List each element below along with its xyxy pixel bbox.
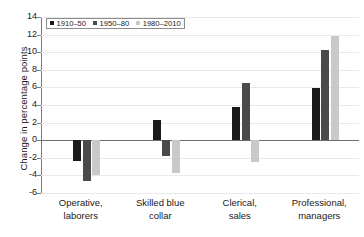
- bar: [312, 88, 320, 140]
- legend-label: 1910–50: [57, 20, 87, 28]
- bar: [251, 140, 259, 162]
- bar-group: [41, 17, 121, 193]
- bar: [172, 140, 180, 173]
- bar: [73, 140, 81, 161]
- legend: 1910–501950–801980–2010: [46, 18, 185, 30]
- legend-item: 1950–80: [93, 20, 129, 28]
- bar-chart: Change in percentage points 14121086420-…: [0, 0, 364, 237]
- y-axis-tick-label: 6: [11, 81, 37, 91]
- y-axis-tick-label: 10: [11, 46, 37, 56]
- plot-area: [41, 17, 359, 193]
- bar: [162, 140, 170, 156]
- bar: [83, 140, 91, 180]
- legend-label: 1950–80: [100, 20, 130, 28]
- legend-swatch-icon: [50, 21, 54, 25]
- legend-swatch-icon: [93, 21, 97, 25]
- x-axis-category-labels: Operative,laborersSkilled bluecollarCler…: [41, 196, 359, 236]
- bar: [242, 83, 250, 140]
- bar: [92, 140, 100, 174]
- bar: [232, 107, 240, 140]
- gridline: [41, 193, 359, 194]
- bar-group: [200, 17, 280, 193]
- y-axis-tick: [37, 193, 41, 194]
- x-axis-category-label: Professional,managers: [268, 196, 364, 222]
- bar: [331, 36, 339, 140]
- y-axis-tick-label: 0: [11, 134, 37, 144]
- y-axis-tick-label: 4: [11, 99, 37, 109]
- y-axis-tick-labels: 14121086420-2-4-6: [7, 17, 37, 193]
- y-axis-tick-label: -2: [11, 152, 37, 162]
- legend-item: 1980–2010: [136, 20, 181, 28]
- y-axis-tick-label: -4: [11, 169, 37, 179]
- y-axis-tick-label: 2: [11, 117, 37, 127]
- bar: [321, 50, 329, 141]
- legend-item: 1910–50: [50, 20, 86, 28]
- category-label-line: Professional,: [268, 196, 364, 209]
- y-axis-tick-label: 12: [11, 29, 37, 39]
- bar-group: [121, 17, 201, 193]
- y-axis-tick-label: 8: [11, 64, 37, 74]
- bar-group: [280, 17, 360, 193]
- legend-label: 1980–2010: [143, 20, 181, 28]
- y-axis-tick-label: 14: [11, 11, 37, 21]
- legend-swatch-icon: [136, 21, 140, 25]
- category-label-line: managers: [268, 209, 364, 222]
- bar-groups: [41, 17, 359, 193]
- bar: [153, 120, 161, 140]
